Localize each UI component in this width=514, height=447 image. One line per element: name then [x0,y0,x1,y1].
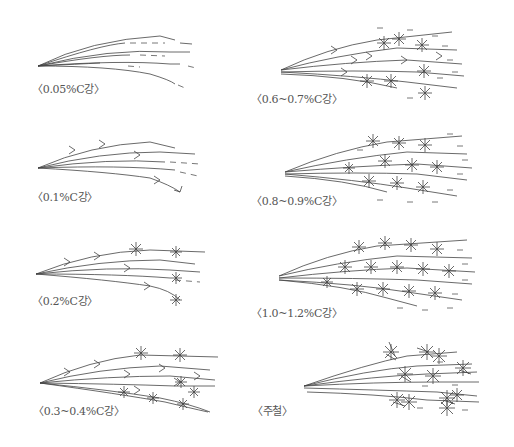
spark-panel-0-3-0-4c: 〈0.3~0.4%C강〉 [0,340,257,447]
panel-label: 〈0.8~0.9%C강〉 [251,192,342,208]
spark-diagram [257,340,514,447]
panel-label: 〈0.3~0.4%C강〉 [33,402,124,418]
panel-label: 〈1.0~1.2%C강〉 [251,304,342,320]
panel-label: 〈0.1%C강〉 [32,188,98,204]
spark-panel-0-1c: 〈0.1%C강〉 [0,110,257,210]
spark-diagram [0,340,257,447]
spark-panel-0-05c: 〈0.05%C강〉 [0,0,257,110]
spark-panel-cast-iron: 〈주철〉 [257,340,514,447]
panel-label: 〈0.2%C강〉 [32,292,98,308]
spark-panel-1-0-1-2c: 〈1.0~1.2%C강〉 [257,220,514,320]
spark-panel-0-2c: 〈0.2%C강〉 [0,220,257,320]
spark-panel-0-8-0-9c: 〈0.8~0.9%C강〉 [257,110,514,210]
panel-label: 〈주철〉 [252,402,293,418]
spark-panel-0-6-0-7c: 〈0.6~0.7%C강〉 [257,0,514,110]
panel-label: 〈0.6~0.7%C강〉 [251,90,342,106]
panel-label: 〈0.05%C강〉 [32,80,105,96]
